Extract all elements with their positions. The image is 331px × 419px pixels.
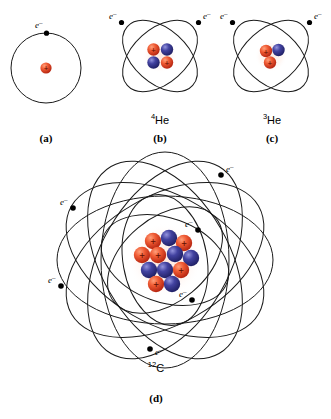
mass-number: 12 <box>148 360 156 369</box>
caption-panel-b: (b) <box>136 132 184 144</box>
neutron-sphere <box>147 56 159 68</box>
proton-plus-sign: + <box>264 47 269 57</box>
proton-plus-sign: + <box>268 58 273 68</box>
panel-c-helium3: + + e– e– <box>216 0 328 110</box>
electron-4: e– <box>48 274 64 289</box>
proton-plus-sign: + <box>151 45 156 55</box>
nucleus-helium3: + + <box>255 40 287 72</box>
element-symbol: He <box>267 114 281 126</box>
proton-plus-sign: + <box>178 265 184 276</box>
proton-plus-sign: + <box>150 236 156 247</box>
nucleus-helium4: + + <box>143 39 177 73</box>
proton-plus-sign: + <box>181 238 187 249</box>
element-symbol: He <box>155 114 169 126</box>
neutron-sphere <box>164 276 180 292</box>
electron-label: e– <box>155 346 163 357</box>
proton-plus-sign: + <box>139 250 145 261</box>
neutron-sphere <box>161 230 177 246</box>
electron-label: e– <box>314 10 322 21</box>
electron-6: e– <box>147 346 163 357</box>
caption-panel-d: (d) <box>128 392 184 404</box>
nuclide-label-helium4: 4He <box>136 112 184 126</box>
electron-label: e– <box>60 196 68 207</box>
electron-label: e– <box>220 10 228 21</box>
nuclide-label-helium3: 3He <box>248 112 296 126</box>
proton-plus-sign: + <box>165 58 170 68</box>
electron-label: e– <box>226 163 234 174</box>
proton-plus-sign: + <box>155 250 161 261</box>
panel-c-atom-graphic: + + e– e– <box>216 0 328 112</box>
nuclide-label-carbon12: 12C <box>128 360 184 374</box>
electron-label: e– <box>35 19 43 30</box>
nucleus-hydrogen: + <box>40 62 51 73</box>
panel-b-helium4: + + e– e– <box>105 0 215 110</box>
neutron-sphere <box>161 43 173 55</box>
neutron-sphere <box>157 262 173 278</box>
electron-2: e– <box>196 10 211 25</box>
proton-plus-sign: + <box>44 64 49 73</box>
electron-1: e– <box>220 10 235 25</box>
nucleus-carbon12: + + + + + + <box>128 223 202 297</box>
electron-2: e– <box>307 10 322 25</box>
panel-b-atom-graphic: + + e– e– <box>105 0 215 112</box>
panel-d-carbon12: + + + + + + e <box>28 160 303 365</box>
atomic-structure-figure: + e– (a) + + e– <box>0 0 331 419</box>
neutron-sphere <box>141 262 157 278</box>
electron-label: e– <box>109 10 117 21</box>
element-symbol: C <box>156 362 164 374</box>
electron-label: e– <box>203 10 211 21</box>
electron-1: e– <box>109 10 124 25</box>
proton-plus-sign: + <box>153 279 159 290</box>
neutron-sphere <box>167 246 183 262</box>
electron-1: e– <box>218 163 234 178</box>
panel-a-atom-graphic: + e– <box>0 0 105 110</box>
caption-panel-a: (a) <box>24 132 68 144</box>
panel-a-hydrogen: + e– <box>0 0 105 110</box>
electron-label: e– <box>185 218 193 229</box>
neutron-sphere <box>272 44 284 56</box>
caption-panel-c: (c) <box>248 132 296 144</box>
electron-label: e– <box>48 274 56 285</box>
panel-d-atom-graphic: + + + + + + e <box>28 160 303 365</box>
